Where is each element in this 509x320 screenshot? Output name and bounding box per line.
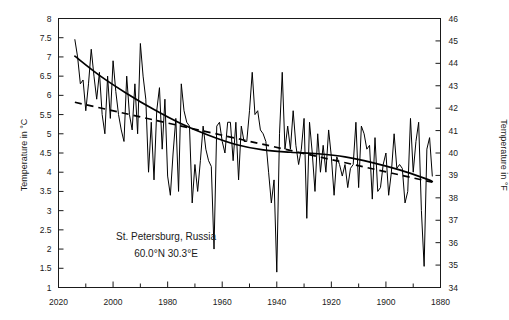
y-tick-label-left: 7.5 (40, 33, 52, 43)
x-tick-label: 1960 (213, 297, 232, 307)
y-tick-label-right: 43 (449, 81, 459, 91)
y-tick-label-left: 5.5 (40, 110, 52, 120)
y-tick-label-left: 2.5 (40, 225, 52, 235)
x-tick-label: 1920 (322, 297, 341, 307)
y-tick-label-left: 3 (47, 206, 52, 216)
x-tick-label: 1880 (431, 297, 450, 307)
x-tick-label: 1900 (376, 297, 395, 307)
y-tick-label-left: 8 (47, 14, 52, 24)
y-tick-label-left: 1 (47, 283, 52, 293)
y-tick-label-right: 40 (449, 148, 459, 158)
x-tick-label: 1980 (158, 297, 177, 307)
y-tick-label-right: 46 (449, 14, 459, 24)
y-axis-right-label: Temperature in °F (499, 95, 509, 215)
y-tick-label-right: 35 (449, 260, 459, 270)
y-tick-label-right: 39 (449, 170, 459, 180)
y-tick-label-right: 45 (449, 36, 459, 46)
y-tick-label-right: 36 (449, 238, 459, 248)
y-tick-label-left: 3.5 (40, 186, 52, 196)
y-tick-label-left: 2 (47, 244, 52, 254)
annotation-location: St. Petersburg, Russia (116, 231, 216, 242)
y-tick-label-right: 34 (449, 283, 459, 293)
y-tick-label-right: 42 (449, 103, 459, 113)
y-tick-label-right: 41 (449, 126, 459, 136)
y-tick-label-right: 38 (449, 193, 459, 203)
x-tick-label: 1940 (267, 297, 286, 307)
y-axis-left-label: Temperature in °C (19, 95, 29, 215)
y-tick-label-left: 4.5 (40, 148, 52, 158)
y-tick-label-left: 7 (47, 52, 52, 62)
x-tick-label: 2000 (104, 297, 123, 307)
x-tick-label: 2020 (49, 297, 68, 307)
annotation-coordinates: 60.0°N 30.3°E (134, 248, 198, 259)
y-tick-label-right: 44 (449, 58, 459, 68)
y-tick-label-left: 1.5 (40, 263, 52, 273)
y-tick-label-right: 37 (449, 215, 459, 225)
y-tick-label-left: 4 (47, 167, 52, 177)
y-tick-label-left: 6 (47, 90, 52, 100)
y-tick-label-left: 5 (47, 129, 52, 139)
y-tick-label-left: 6.5 (40, 71, 52, 81)
